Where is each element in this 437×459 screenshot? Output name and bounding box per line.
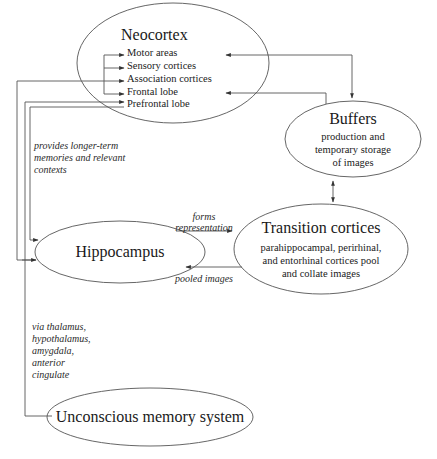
svg-text:representation: representation bbox=[175, 222, 233, 233]
neocortex-item-association-cortices: Association cortices bbox=[127, 73, 212, 84]
hippocampus-title: Hippocampus bbox=[76, 243, 165, 261]
buffers-desc-line-2: temporary storage bbox=[315, 144, 391, 155]
svg-text:cingulate: cingulate bbox=[32, 369, 70, 380]
svg-text:via thalamus,: via thalamus, bbox=[32, 321, 86, 332]
neocortex-item-frontal-lobe: Frontal lobe bbox=[127, 86, 178, 97]
svg-text:forms: forms bbox=[193, 211, 216, 222]
svg-text:contexts: contexts bbox=[34, 164, 67, 175]
neocortex-title: Neocortex bbox=[121, 26, 188, 43]
transition-desc-line-2: and entorhinal cortices pool bbox=[263, 255, 380, 266]
buffers-desc-line-1: production and bbox=[321, 131, 385, 142]
memory-system-diagram: Neocortex Motor areas Sensory cortices A… bbox=[0, 0, 437, 459]
node-transition-cortices: Transition cortices parahippocampal, per… bbox=[234, 204, 408, 294]
svg-text:provides longer-term: provides longer-term bbox=[33, 140, 118, 151]
svg-text:hypothalamus,: hypothalamus, bbox=[32, 333, 91, 344]
svg-text:memories and relevant: memories and relevant bbox=[34, 152, 125, 163]
svg-text:anterior: anterior bbox=[32, 357, 65, 368]
transition-desc-line-3: and collate images bbox=[282, 268, 360, 279]
label-via-thalamus: via thalamus, hypothalamus, amygdala, an… bbox=[32, 321, 91, 380]
label-forms-representation: forms representation bbox=[175, 211, 233, 233]
node-buffers: Buffers production and temporary storage… bbox=[285, 101, 421, 177]
unconscious-title: Unconscious memory system bbox=[56, 408, 245, 426]
neocortex-item-prefrontal-lobe: Prefrontal lobe bbox=[127, 98, 190, 109]
node-unconscious-memory-system: Unconscious memory system bbox=[47, 388, 253, 446]
buffers-desc-line-3: of images bbox=[332, 157, 373, 168]
transition-title: Transition cortices bbox=[262, 219, 381, 236]
neocortex-item-sensory-cortices: Sensory cortices bbox=[127, 60, 196, 71]
label-pooled-images: pooled images bbox=[174, 273, 233, 284]
label-provides-longer-term: provides longer-term memories and releva… bbox=[33, 140, 125, 175]
svg-text:amygdala,: amygdala, bbox=[32, 345, 74, 356]
node-neocortex: Neocortex Motor areas Sensory cortices A… bbox=[77, 3, 269, 123]
neocortex-item-motor-areas: Motor areas bbox=[127, 47, 177, 58]
buffers-title: Buffers bbox=[329, 110, 377, 127]
transition-desc-line-1: parahippocampal, perirhinal, bbox=[261, 242, 382, 253]
